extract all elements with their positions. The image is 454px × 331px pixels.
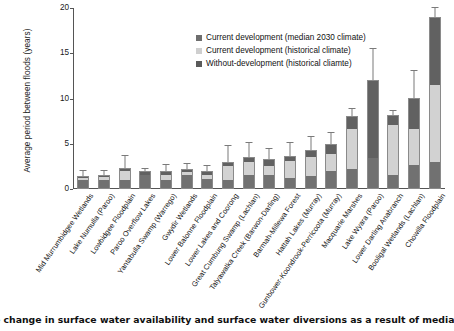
error-bar-line [83,171,84,176]
y-tick-label: 15 [49,49,69,57]
error-bar-cap [369,48,376,49]
error-bar-line [372,49,373,81]
y-tick-label: 20 [49,4,69,12]
y-tick-label: 10 [49,95,69,103]
y-tick-label: 5 [49,140,69,148]
error-bar-cap [328,132,335,133]
error-bar-line [434,8,435,17]
error-bar-cap [349,108,356,109]
chart-figure: Average period between floods (years) 05… [0,0,454,331]
figure-caption: e change in surface water availability a… [0,314,454,325]
error-bar-line [352,109,353,115]
error-bar-cap [431,7,438,8]
error-bar-cap [80,170,87,171]
bar-outline [77,176,89,189]
y-axis-title: Average period between floods (years) [23,6,32,196]
x-axis-labels: Mid Murrumbidgee WetlandsLake Numulla (P… [73,190,454,305]
y-tick-label: 0 [49,185,69,193]
error-bar-cap [411,70,418,71]
